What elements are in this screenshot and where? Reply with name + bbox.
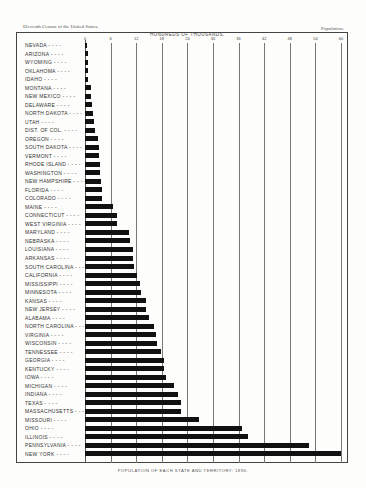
state-label: NEW JERSEY - - - - — [25, 306, 75, 312]
population-bar — [85, 383, 174, 388]
x-tick-label: 42 — [262, 36, 266, 41]
population-bar — [85, 247, 133, 252]
gridline — [290, 43, 291, 463]
state-label: IOWA - - - - — [25, 374, 54, 380]
population-bar — [85, 443, 309, 448]
population-bar — [85, 324, 154, 329]
population-bar — [85, 290, 141, 295]
state-label: KANSAS - - - - — [25, 298, 62, 304]
population-bar — [85, 145, 99, 150]
state-label: FLORIDA - - - - — [25, 187, 63, 193]
population-bar — [85, 332, 156, 337]
state-label: LOUISIANA - - - - — [25, 246, 69, 252]
population-bar — [85, 213, 117, 218]
x-tick-label: 48 — [288, 36, 292, 41]
population-bar — [85, 238, 130, 243]
population-bar — [85, 315, 149, 320]
state-label: WISCONSIN - - - - — [25, 340, 71, 346]
state-label: WEST VIRGINIA - - - - — [25, 221, 81, 227]
state-label: MAINE - - - - — [25, 204, 57, 210]
state-label: NORTH DAKOTA - - - - — [25, 110, 82, 116]
population-bar — [85, 307, 146, 312]
state-label: ALABAMA - - - - — [25, 315, 65, 321]
state-label: DELAWARE - - - - — [25, 102, 70, 108]
population-bar — [85, 204, 113, 209]
population-bar — [85, 119, 94, 124]
population-bar — [85, 43, 87, 48]
state-label: MISSISSIPPI - - - - — [25, 281, 73, 287]
state-label: VERMONT - - - - — [25, 153, 67, 159]
gridline — [187, 43, 188, 463]
x-tick-label: 60 — [339, 36, 343, 41]
population-bar — [85, 85, 91, 90]
population-bar — [85, 60, 88, 65]
population-bar — [85, 366, 164, 371]
state-label: OKLAHOMA - - - - — [25, 68, 70, 74]
x-tick-label: 0 — [84, 36, 86, 41]
state-label: PENNSYLVANIA - - - - — [25, 442, 81, 448]
state-label: ILLINOIS - - - - — [25, 434, 63, 440]
population-bar — [85, 68, 88, 73]
population-bar — [85, 187, 102, 192]
state-label: MINNESOTA - - - - — [25, 289, 71, 295]
state-label: KENTUCKY - - - - — [25, 366, 69, 372]
population-bar — [85, 196, 102, 201]
gridline — [341, 43, 342, 463]
x-tick-label: 6 — [109, 36, 111, 41]
population-bar — [85, 273, 137, 278]
state-label: ARIZONA - - - - — [25, 51, 64, 57]
population-bar — [85, 400, 181, 405]
population-bar — [85, 77, 88, 82]
population-bar — [85, 170, 100, 175]
x-tick-label: 18 — [160, 36, 164, 41]
state-label: RHODE ISLAND - - - - — [25, 161, 81, 167]
population-bar — [85, 451, 341, 456]
gridline — [213, 43, 214, 463]
population-bar — [85, 128, 95, 133]
gridline — [315, 43, 316, 463]
state-label: IDAHO - - - - — [25, 76, 57, 82]
state-label: MASSACHUSETTS - - - - — [25, 408, 88, 414]
x-tick-label: 54 — [313, 36, 317, 41]
state-label: GEORGIA - - - - — [25, 357, 65, 363]
state-label: MONTANA - - - - — [25, 85, 66, 91]
x-tick-label: 36 — [236, 36, 240, 41]
state-label: SOUTH DAKOTA - - - - — [25, 144, 82, 150]
state-label: DIST. OF COL. - - - - — [25, 127, 77, 133]
state-label: OREGON - - - - — [25, 136, 64, 142]
state-label: COLORADO - - - - — [25, 195, 71, 201]
x-tick-label: 12 — [134, 36, 138, 41]
population-bar — [85, 349, 161, 354]
population-bar — [85, 136, 98, 141]
state-label: TENNESSEE - - - - — [25, 349, 73, 355]
gridline — [264, 43, 265, 463]
population-bar — [85, 281, 140, 286]
population-bar — [85, 230, 129, 235]
population-bar — [85, 51, 88, 56]
state-label: TEXAS - - - - — [25, 400, 58, 406]
state-label: CONNECTICUT - - - - — [25, 212, 79, 218]
population-bar — [85, 417, 199, 422]
state-label: NEBRASKA - - - - — [25, 238, 69, 244]
population-bar — [85, 221, 117, 226]
chart-caption: POPULATION OF EACH STATE AND TERRITORY: … — [0, 468, 366, 473]
state-label: NEVADA - - - - — [25, 42, 61, 48]
population-bar — [85, 94, 91, 99]
state-label: INDIANA - - - - — [25, 391, 62, 397]
header-right: Population. — [321, 26, 344, 31]
gridline — [239, 43, 240, 463]
state-label: MICHIGAN - - - - — [25, 383, 67, 389]
x-tick-label: 24 — [185, 36, 189, 41]
population-bar — [85, 256, 133, 261]
state-label: ARKANSAS - - - - — [25, 255, 69, 261]
state-label: SOUTH CAROLINA - - - - — [25, 264, 88, 270]
population-bar — [85, 434, 248, 439]
population-bar — [85, 426, 242, 431]
population-bar — [85, 358, 164, 363]
population-bar — [85, 102, 92, 107]
header-left: Eleventh Census of the United States. — [23, 24, 99, 29]
population-bar — [85, 392, 178, 397]
population-bar — [85, 298, 146, 303]
state-label: NORTH CAROLINA - - - - — [25, 323, 88, 329]
population-bar — [85, 111, 93, 116]
